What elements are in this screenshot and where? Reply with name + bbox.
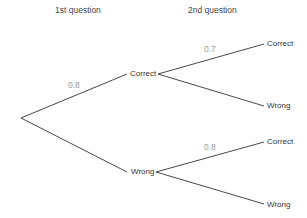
header-2nd-question: 2nd question — [188, 5, 237, 15]
node-q2-ww: Wrong — [267, 200, 290, 210]
branch-correct-wrong — [158, 74, 264, 106]
branch-root-wrong — [21, 118, 127, 172]
header-1st-question: 1st question — [55, 5, 101, 15]
branch-wrong-wrong — [156, 172, 264, 204]
node-q2-cw: Wrong — [267, 101, 290, 111]
node-q2-wc: Correct — [267, 137, 293, 147]
prob-q2-correct-given-correct: 0.7 — [204, 44, 216, 54]
tree-branches — [0, 0, 307, 218]
prob-q1-correct: 0.8 — [68, 80, 80, 90]
node-q2-cc: Correct — [267, 39, 293, 49]
prob-q2-correct-given-wrong: 0.8 — [204, 142, 216, 152]
node-q1-wrong: Wrong — [131, 167, 154, 177]
node-q1-correct: Correct — [130, 69, 156, 79]
